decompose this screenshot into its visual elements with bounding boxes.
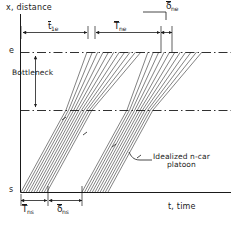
diagram-canvas bbox=[0, 0, 233, 228]
dimension-subscript-Tne: ne bbox=[119, 25, 127, 32]
trajectory bbox=[100, 52, 186, 192]
trajectory bbox=[95, 52, 175, 192]
trajectory bbox=[103, 52, 191, 192]
trajectory-pointer-ticks bbox=[62, 117, 141, 158]
figure-time-space-diagram: x, distance t, time e s Bottleneck Ideal… bbox=[0, 0, 233, 228]
bottleneck-label: Bottleneck bbox=[12, 69, 53, 77]
dimension-subscript-delta-ns: ns bbox=[62, 208, 69, 215]
dimension-subscript-delta-ne: ne bbox=[171, 5, 179, 12]
dimension-label-Tne: Tne bbox=[114, 22, 127, 31]
dimension-subscript-t1e: 1e bbox=[51, 25, 59, 32]
trajectory bbox=[92, 52, 169, 192]
platoon-2 bbox=[82, 52, 202, 192]
y-tick-label-e: e bbox=[9, 47, 14, 55]
platoon-callout: Idealized n-car platoon bbox=[153, 153, 210, 169]
platoon-callout-line2: platoon bbox=[167, 160, 196, 169]
trajectory bbox=[82, 52, 148, 192]
trajectory bbox=[44, 52, 135, 192]
y-tick-label-s: s bbox=[9, 186, 13, 194]
platoon-callout-leader bbox=[129, 152, 152, 160]
trajectory bbox=[90, 52, 164, 192]
y-axis-label: x, distance bbox=[6, 4, 52, 12]
trajectory bbox=[47, 52, 141, 192]
dimension-label-Tns: Tns bbox=[22, 205, 34, 214]
dimension-label-delta-ne: δne bbox=[166, 2, 179, 11]
reference-lines bbox=[21, 53, 232, 111]
dimension-label-delta-ns: δns bbox=[57, 205, 69, 214]
dimension-label-t1e: t1e bbox=[48, 22, 59, 31]
dimension-subscript-Tns: ns bbox=[27, 208, 34, 215]
trajectory bbox=[108, 52, 202, 192]
x-axis-label: t, time bbox=[168, 203, 196, 211]
top-dimension-lines bbox=[21, 12, 172, 52]
